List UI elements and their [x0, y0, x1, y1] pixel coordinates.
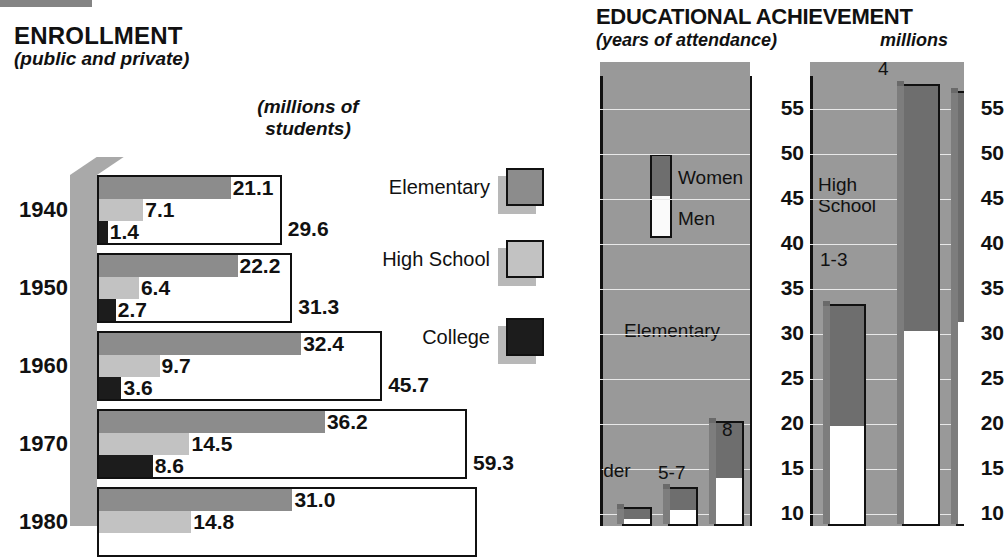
- enrollment-value-label: 36.2: [327, 410, 368, 434]
- axis-tick-label: 10: [981, 501, 1004, 525]
- achievement-bar: [668, 487, 698, 526]
- enrollment-value-label: 2.7: [118, 298, 147, 322]
- enrollment-bar-col: [99, 221, 108, 243]
- high-school-group-label: High School: [818, 174, 876, 216]
- bar-women-segment: [670, 489, 696, 510]
- enrollment-year-label: 1970: [10, 431, 68, 457]
- women-men-legend-swatch: [650, 154, 672, 238]
- enrollment-bar-elem: [99, 177, 231, 199]
- elementary-group-label: Elementary: [624, 320, 720, 342]
- bar-3d-shadow-top: [951, 88, 958, 93]
- enrollment-value-label: 22.2: [240, 254, 281, 278]
- bar-3d-shadow-top: [823, 301, 830, 306]
- enrollment-value-label: 31.0: [294, 488, 335, 512]
- axis-tick-label: 50: [781, 141, 804, 165]
- enrollment-bar-elem: [99, 255, 238, 277]
- bar-women-segment: [904, 86, 938, 331]
- men-swatch: [652, 196, 670, 236]
- women-swatch: [652, 156, 670, 196]
- legend-college-swatch: [506, 318, 544, 356]
- enrollment-value-label: 8.6: [155, 454, 184, 478]
- enrollment-year-label: 1960: [10, 353, 68, 379]
- high-school-axis-line: [810, 76, 813, 526]
- enrollment-total-label: 45.7: [388, 373, 429, 397]
- enrollment-value-label: 7.1: [145, 198, 174, 222]
- axis-tick-label: 25: [981, 366, 1004, 390]
- enrollment-value-label: 3.6: [123, 376, 152, 400]
- enrollment-chart: ENROLLMENT (public and private) (million…: [0, 0, 580, 526]
- hs-label-line-1: High: [818, 174, 857, 195]
- achievement-bar-label: 4: [878, 62, 889, 80]
- bar-3d-shadow-top: [663, 484, 670, 489]
- axis-tick-label: 20: [981, 411, 1004, 435]
- bar-3d-shadow: [709, 419, 716, 524]
- enrollment-title: ENROLLMENT: [14, 22, 183, 50]
- achievement-bar-label: 1-3: [820, 249, 847, 271]
- legend-label: Elementary: [330, 176, 490, 199]
- enrollment-total-box: [97, 487, 477, 557]
- axis-tick-label: 45: [981, 186, 1004, 210]
- enrollment-year-label: 1980: [10, 509, 68, 535]
- enrollment-value-label: 6.4: [141, 276, 170, 300]
- axis-tick-label: 55: [981, 96, 1004, 120]
- elementary-plot: Elementary Women Men under55-78: [600, 62, 750, 526]
- achievement-chart: EDUCATIONAL ACHIEVEMENT (years of attend…: [580, 0, 964, 526]
- women-legend-label: Women: [678, 167, 743, 189]
- axis-tick-label: 50: [981, 141, 1004, 165]
- bar-3d-shadow: [663, 485, 670, 524]
- enrollment-total-label: 31.3: [298, 295, 339, 319]
- legend-label: High School: [330, 248, 490, 271]
- chart-3d-side-face: [70, 175, 97, 526]
- bar-3d-shadow-top: [617, 504, 624, 509]
- axis-tick-label: 35: [981, 276, 1004, 300]
- gridline: [600, 109, 750, 110]
- elementary-axis-line: [600, 76, 603, 526]
- men-legend-label: Men: [678, 208, 715, 230]
- gridline: [600, 199, 750, 200]
- achievement-bar: [828, 304, 866, 526]
- axis-tick-label: 40: [981, 231, 1004, 255]
- bar-3d-shadow-top: [709, 418, 716, 423]
- bar-women-segment: [958, 93, 964, 322]
- third-plot-cutoff: [950, 62, 964, 526]
- bar-3d-shadow: [897, 82, 904, 524]
- enrollment-bar-elem: [99, 333, 301, 355]
- bar-3d-shadow: [951, 89, 958, 524]
- axis-tick-label: 55: [781, 96, 804, 120]
- achievement-bar: [902, 84, 940, 526]
- enrollment-bar-col: [99, 455, 153, 477]
- enrollment-value-label: 14.8: [193, 510, 234, 534]
- axis-tick-label: 30: [781, 321, 804, 345]
- bar-3d-shadow: [823, 302, 830, 524]
- legend-elementary-swatch: [506, 168, 544, 206]
- enrollment-bar-hs: [99, 199, 143, 221]
- axis-tick-label: 15: [781, 456, 804, 480]
- gridline: [600, 379, 750, 380]
- enrollment-bar-hs: [99, 511, 191, 533]
- enrollment-total-label: 59.3: [473, 451, 514, 475]
- gridline: [600, 289, 750, 290]
- units-line-2: students): [265, 118, 351, 139]
- enrollment-bar-hs: [99, 277, 139, 299]
- gridline: [600, 334, 750, 335]
- axis-tick-label: 30: [981, 321, 1004, 345]
- elementary-scale-edge: [750, 76, 752, 526]
- enrollment-total-box: [97, 409, 467, 479]
- enrollment-bar-hs: [99, 433, 189, 455]
- gridline: [600, 244, 750, 245]
- achievement-subtitle: (years of attendance): [596, 30, 777, 51]
- enrollment-bar-col: [99, 299, 116, 321]
- axis-tick-label: 35: [781, 276, 804, 300]
- enrollment-value-label: 21.1: [233, 176, 274, 200]
- enrollment-year-label: 1940: [10, 197, 68, 223]
- gridline: [600, 154, 750, 155]
- legend-high-school-swatch: [506, 240, 544, 278]
- bar-women-segment: [624, 509, 650, 519]
- bar-label-line-1: under: [600, 460, 631, 481]
- enrollment-bar-elem: [99, 489, 292, 511]
- achievement-bar-label: 8: [722, 419, 733, 441]
- achievement-bar-label: under5: [600, 460, 631, 502]
- achievement-title: EDUCATIONAL ACHIEVEMENT: [596, 4, 913, 30]
- enrollment-value-label: 14.5: [191, 432, 232, 456]
- enrollment-year-label: 1950: [10, 275, 68, 301]
